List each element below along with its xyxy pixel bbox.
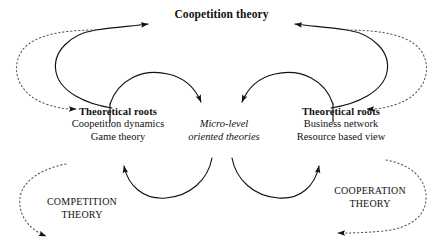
center-label-line-2: oriented theories <box>169 131 279 144</box>
right-theoretical-roots-item-2: Resource based view <box>261 131 421 143</box>
coopetition-theory-diagram: Coopetition theory Theoretical roots Coo… <box>0 0 443 250</box>
center-label-line-1: Micro-level <box>169 118 279 131</box>
edge-dotted-outer-right <box>347 30 427 109</box>
edge-left-roots-to-coopetition <box>55 24 148 108</box>
right-theoretical-roots-heading: Theoretical roots <box>261 106 421 118</box>
micro-level-oriented-theories-label: Micro-level oriented theories <box>169 118 279 144</box>
edge-right-roots-to-center <box>242 72 333 104</box>
edge-center-to-right-roots <box>232 158 319 198</box>
edge-center-to-left-roots <box>124 158 212 198</box>
cooperation-theory-line-1: COOPERATION <box>314 185 426 198</box>
edge-right-roots-to-coopetition <box>295 24 388 108</box>
diagram-title: Coopetition theory <box>0 8 443 22</box>
right-theoretical-roots-item-1: Business network <box>261 118 421 130</box>
edge-dotted-outer-left <box>16 30 96 109</box>
cooperation-theory-line-2: THEORY <box>314 198 426 211</box>
competition-theory-line-2: THEORY <box>26 209 138 222</box>
competition-theory-line-1: COMPETITION <box>26 196 138 209</box>
edge-left-roots-to-center <box>110 72 201 104</box>
right-theoretical-roots-block: Theoretical roots Business network Resou… <box>261 106 421 143</box>
competition-theory-label: COMPETITION THEORY <box>26 196 138 221</box>
left-theoretical-roots-heading: Theoretical roots <box>38 106 198 118</box>
cooperation-theory-label: COOPERATION THEORY <box>314 185 426 210</box>
